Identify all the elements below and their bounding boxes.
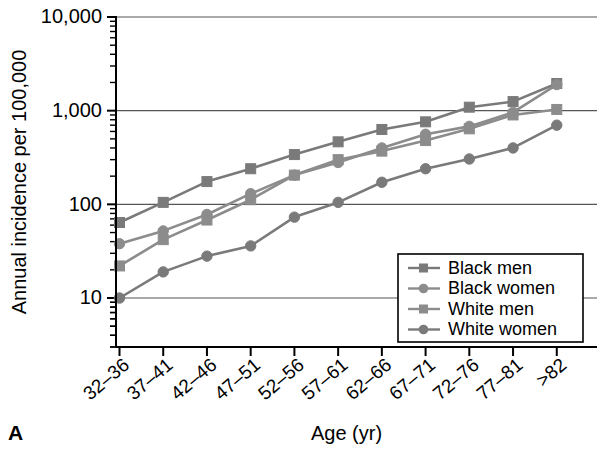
data-point-white-men-2 (202, 215, 212, 225)
data-point-black-men-3 (246, 164, 256, 174)
legend-label-black-women: Black women (448, 278, 555, 298)
data-point-white-women-6 (377, 177, 387, 187)
figure-panel-a: 101001,00010,00032–3637–4142–4647–5152–5… (0, 0, 615, 452)
data-point-white-men-7 (421, 136, 431, 146)
x-tick-label: 52–56 (254, 354, 308, 404)
data-point-white-men-10 (552, 104, 562, 114)
data-point-white-men-1 (158, 235, 168, 245)
data-point-black-men-6 (377, 124, 387, 134)
data-point-black-men-4 (289, 150, 299, 160)
legend-label-white-men: White men (448, 299, 534, 319)
x-tick-label: 47–51 (210, 354, 264, 404)
data-point-white-men-9 (508, 110, 518, 120)
data-point-black-men-7 (421, 117, 431, 127)
y-tick-label: 100 (69, 193, 102, 215)
x-tick-label: 77–81 (473, 354, 527, 404)
x-tick-label: 37–41 (123, 354, 177, 404)
y-tick-label: 1,000 (52, 99, 102, 121)
chart-legend: Black menBlack womenWhite menWhite women (398, 254, 583, 342)
x-tick-label: >82 (532, 354, 570, 391)
incidence-by-age-chart: 101001,00010,00032–3637–4142–4647–5152–5… (0, 0, 615, 452)
x-tick-label: 67–71 (385, 354, 439, 404)
panel-label: A (8, 421, 23, 444)
x-tick-label: 57–61 (298, 354, 352, 404)
legend-marker-circle (419, 325, 429, 335)
x-tick-label: 72–76 (429, 354, 483, 404)
legend-label-white-women: White women (448, 319, 557, 339)
data-point-black-men-8 (464, 102, 474, 112)
data-point-white-men-4 (289, 170, 299, 180)
x-tick-label: 42–46 (167, 354, 221, 404)
data-point-white-women-2 (202, 251, 212, 261)
legend-label-black-men: Black men (448, 258, 532, 278)
x-tick-label: 32–36 (79, 354, 133, 404)
x-tick-label: 62–66 (341, 354, 395, 404)
legend-marker-square (419, 264, 428, 273)
data-point-white-women-7 (420, 164, 430, 174)
y-tick-label: 10 (80, 286, 102, 308)
legend-marker-square (419, 305, 428, 314)
x-axis-title: Age (yr) (311, 422, 382, 444)
data-point-white-women-9 (508, 143, 518, 153)
data-point-white-men-8 (464, 124, 474, 134)
y-axis-title: Annual incidence per 100,000 (8, 50, 30, 315)
data-point-black-men-2 (202, 177, 212, 187)
y-tick-label: 10,000 (41, 5, 102, 27)
data-point-white-women-5 (333, 197, 343, 207)
data-point-white-men-6 (377, 146, 387, 156)
data-point-white-men-3 (246, 195, 256, 205)
data-point-black-men-9 (508, 97, 518, 107)
data-point-white-men-5 (333, 155, 343, 165)
data-point-white-women-4 (289, 212, 299, 222)
data-point-white-women-1 (158, 267, 168, 277)
data-point-white-women-3 (245, 241, 255, 251)
data-point-black-men-5 (333, 137, 343, 147)
legend-marker-circle (419, 284, 429, 294)
data-point-white-women-8 (464, 154, 474, 164)
series-line-white-men (120, 110, 557, 266)
data-point-black-women-10 (552, 79, 562, 89)
data-point-white-women-10 (552, 120, 562, 130)
data-point-black-men-1 (158, 197, 168, 207)
